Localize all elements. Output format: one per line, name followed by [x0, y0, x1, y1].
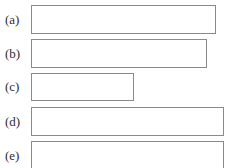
- item-label-d: (d): [5, 115, 20, 129]
- answer-box-e[interactable]: [31, 141, 224, 168]
- item-label-e: (e): [5, 149, 19, 163]
- answer-box-d[interactable]: [31, 107, 224, 136]
- answer-box-a[interactable]: [31, 5, 216, 34]
- item-label-c: (c): [5, 80, 19, 94]
- item-label-a: (a): [5, 13, 19, 27]
- answer-box-b[interactable]: [31, 39, 207, 68]
- item-label-b: (b): [5, 47, 20, 61]
- answer-box-c[interactable]: [31, 73, 134, 101]
